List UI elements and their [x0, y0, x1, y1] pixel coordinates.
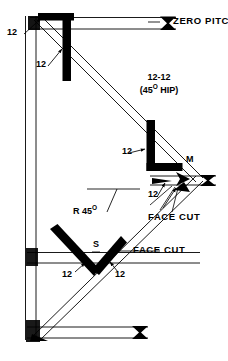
- label-run-lower-left: 12: [62, 270, 72, 279]
- label-zero-pitch: ZERO PITCH: [173, 16, 228, 26]
- framing-square-diagram: ZERO PITCH 12 12 12-12 (45O HIP) 12 M 12…: [0, 0, 228, 361]
- label-hip-angle: (45O HIP): [128, 83, 190, 96]
- label-mark-m: M: [186, 155, 194, 164]
- label-rise-upper-inner: 12: [36, 60, 46, 69]
- label-run-lower-right: 12: [115, 270, 125, 279]
- label-run-mid: 12: [148, 190, 158, 199]
- label-r45: R 45O: [73, 205, 97, 216]
- label-mark-s: S: [93, 240, 99, 249]
- framing-square-top-left: [38, 13, 74, 81]
- label-hip-ratio: 12-12: [128, 72, 190, 83]
- label-face-cut-upper: FACE CUT: [148, 212, 200, 222]
- label-face-cut-lower: FACE CUT: [133, 245, 185, 255]
- label-hip-ratio-block: 12-12 (45O HIP): [128, 72, 190, 97]
- label-rise-mid: 12: [122, 147, 132, 156]
- framing-square-mid: [147, 120, 183, 171]
- diagram-canvas: [0, 0, 228, 361]
- label-rise-top-left: 12: [7, 28, 17, 37]
